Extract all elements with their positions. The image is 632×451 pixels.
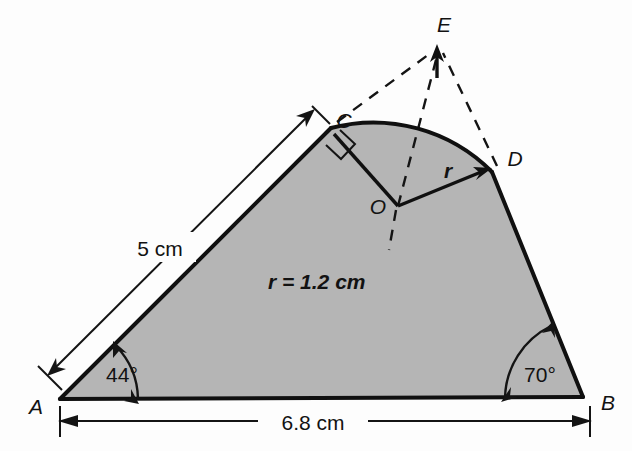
geometry-diagram-canvas: A B C D E O r 5 cm 6.8 cm 44° 70° r = 1.… bbox=[0, 0, 632, 451]
dimension-label-5cm: 5 cm bbox=[137, 237, 183, 260]
point-label-D: D bbox=[507, 147, 522, 170]
point-label-E: E bbox=[437, 13, 452, 36]
geometry-figure: A B C D E O r 5 cm 6.8 cm 44° 70° r = 1.… bbox=[0, 0, 632, 451]
radius-value-label: r = 1.2 cm bbox=[268, 270, 365, 293]
dimension-label-6p8cm: 6.8 cm bbox=[281, 411, 344, 434]
point-label-A: A bbox=[27, 395, 43, 418]
angle-label-70: 70° bbox=[524, 363, 556, 386]
point-label-O: O bbox=[370, 195, 386, 218]
angle-label-44: 44° bbox=[106, 363, 138, 386]
extension-tick-5cm-end bbox=[312, 106, 330, 124]
point-label-C: C bbox=[336, 109, 352, 132]
point-label-B: B bbox=[601, 391, 615, 414]
radius-value-text: r = 1.2 cm bbox=[268, 270, 365, 293]
